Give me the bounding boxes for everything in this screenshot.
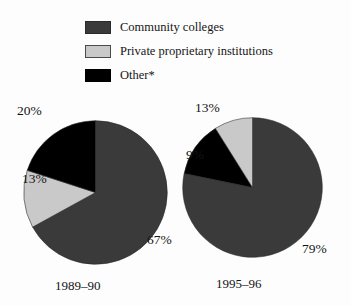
pie-left-year-label: 1989–90	[55, 278, 101, 294]
chart-legend: Community colleges Private proprietary i…	[85, 15, 335, 87]
pie-right-slices	[183, 118, 323, 258]
pie-left-value-community: 67%	[147, 233, 172, 247]
square-swatch-icon	[85, 45, 111, 58]
pie-left-value-other: 20%	[17, 104, 42, 118]
square-swatch-icon	[85, 69, 111, 82]
legend-item-label: Other*	[120, 69, 155, 82]
legend-item-private-proprietary-institutions: Private proprietary institutions	[85, 39, 335, 63]
pie-left-value-private: 13%	[22, 172, 47, 186]
legend-item-other: Other*	[85, 63, 335, 87]
pie-left-slices	[24, 121, 168, 265]
pie-right-value-other: 13%	[195, 101, 220, 115]
pie-right-svg	[182, 117, 323, 258]
legend-item-label: Private proprietary institutions	[120, 45, 273, 58]
pie-chart-1995-96	[182, 117, 323, 258]
square-swatch-icon	[85, 21, 111, 34]
pie-right-value-private: 9%	[186, 148, 204, 162]
legend-item-community-colleges: Community colleges	[85, 15, 335, 39]
legend-item-label: Community colleges	[120, 21, 224, 34]
pie-chart-figure: Community colleges Private proprietary i…	[0, 0, 351, 305]
pie-right-year-label: 1995–96	[216, 276, 262, 292]
pie-right-value-community: 79%	[302, 242, 327, 256]
